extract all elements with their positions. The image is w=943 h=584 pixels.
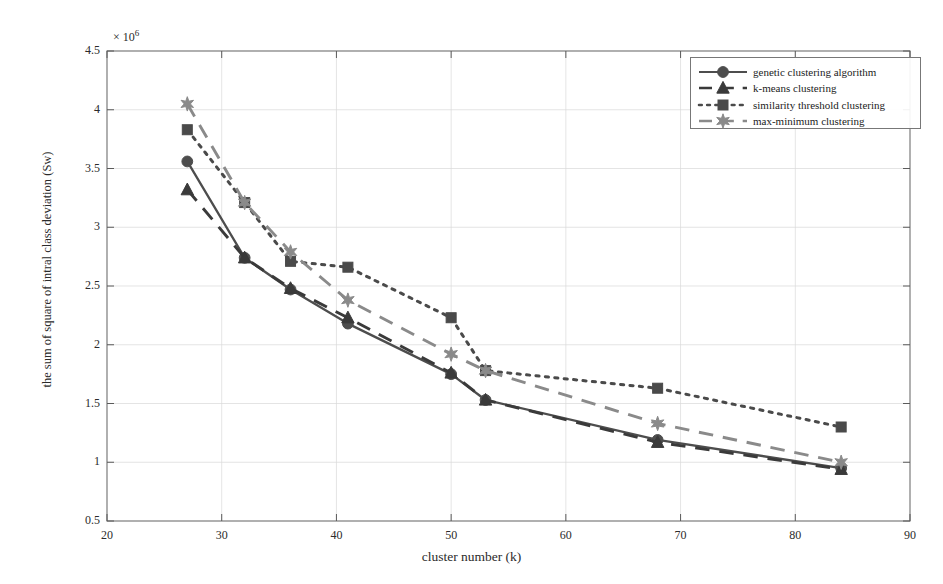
y-axis-multiplier-exponent: 6	[135, 28, 140, 38]
x-tick-label: 60	[546, 528, 586, 543]
x-axis-title: cluster number (k)	[0, 549, 943, 565]
legend-sample-star-icon	[697, 113, 749, 129]
x-tick-label: 50	[431, 528, 471, 543]
chart-figure: × 106 0.511.522.533.544.5 20304050607080…	[0, 0, 943, 584]
legend-item-label: similarity threshold clustering	[753, 99, 885, 111]
data-series-layer	[181, 97, 847, 475]
legend-sample-square-icon	[697, 97, 749, 113]
x-tick-label: 40	[316, 528, 356, 543]
legend-item-label: max-minimum clustering	[753, 115, 865, 127]
x-tick-label: 80	[775, 528, 815, 543]
legend-item[interactable]: genetic clustering algorithm	[697, 63, 876, 80]
y-tick-label: 4	[55, 102, 100, 117]
x-tick-label: 30	[202, 528, 242, 543]
x-tick-label: 70	[661, 528, 701, 543]
legend-item[interactable]: similarity threshold clustering	[697, 96, 885, 113]
series-square	[182, 125, 846, 432]
y-axis-multiplier: × 106	[113, 28, 139, 45]
y-axis-title: the sum of square of intral class deviat…	[40, 105, 55, 435]
y-tick-label: 0.5	[55, 513, 100, 528]
y-tick-label: 1.5	[55, 396, 100, 411]
legend-sample-triangle-icon	[697, 80, 749, 96]
series-circle	[182, 156, 847, 473]
y-tick-label: 2	[55, 337, 100, 352]
y-tick-label: 3.5	[55, 161, 100, 176]
legend: genetic clustering algorithmk-means clus…	[690, 57, 921, 129]
legend-item[interactable]: k-means clustering	[697, 80, 836, 97]
y-axis-multiplier-base: × 10	[113, 30, 135, 44]
series-triangle	[181, 183, 847, 474]
legend-item[interactable]: max-minimum clustering	[697, 113, 865, 130]
legend-item-label: k-means clustering	[753, 82, 836, 94]
y-tick-label: 3	[55, 219, 100, 234]
x-tick-label: 90	[890, 528, 930, 543]
x-tick-label: 20	[87, 528, 127, 543]
y-tick-label: 1	[55, 454, 100, 469]
legend-sample-circle-icon	[697, 64, 749, 80]
y-tick-label: 2.5	[55, 278, 100, 293]
legend-item-label: genetic clustering algorithm	[753, 66, 876, 78]
y-tick-label: 4.5	[55, 43, 100, 58]
